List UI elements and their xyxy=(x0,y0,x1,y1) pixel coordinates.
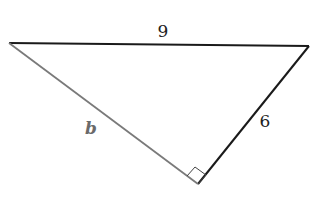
label-left-side: b xyxy=(85,118,97,138)
label-right-side: 6 xyxy=(260,111,271,131)
triangle-diagram: 9 6 b xyxy=(0,0,323,197)
side-right xyxy=(198,46,309,184)
label-top-side: 9 xyxy=(158,21,169,41)
side-top xyxy=(9,43,309,46)
side-left xyxy=(9,43,198,184)
right-angle-marker xyxy=(187,167,206,184)
